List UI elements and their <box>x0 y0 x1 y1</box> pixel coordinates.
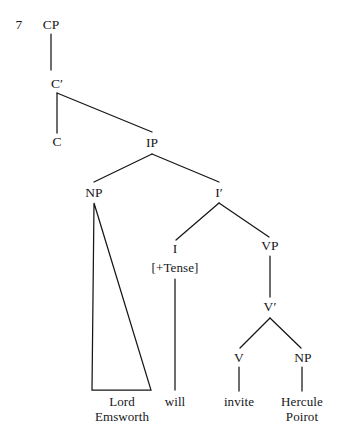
leaf-subject-line2: Emsworth <box>95 409 149 424</box>
branch-ibar-i <box>176 203 219 240</box>
node-cbar: C′ <box>51 76 63 92</box>
node-cp: CP <box>43 17 60 33</box>
leaf-object: Hercule Poirot <box>281 394 323 425</box>
node-c: C <box>52 134 61 150</box>
branch-ibar-vp <box>219 203 269 237</box>
branch-ip-np <box>94 154 152 182</box>
leaf-verb: invite <box>224 394 254 409</box>
leaf-aux: will <box>165 394 186 409</box>
leaf-object-line2: Poirot <box>281 409 323 424</box>
syntax-tree-figure: 7 CP C′ C IP NP I′ I [+Tense] VP V′ V NP… <box>0 0 341 442</box>
tree-branch-lines <box>0 0 341 442</box>
node-ibar: I′ <box>215 185 223 201</box>
node-np-subject: NP <box>85 185 102 201</box>
node-v: V <box>234 350 244 366</box>
branch-vbar-np <box>270 318 301 348</box>
leaf-object-line1: Hercule <box>281 394 323 409</box>
branch-cbar-ip <box>57 93 152 132</box>
node-i: I <box>173 241 178 257</box>
branch-vbar-v <box>240 318 270 348</box>
node-ip: IP <box>146 135 158 151</box>
np-subject-triangle <box>92 203 151 390</box>
node-i-features: [+Tense] <box>152 260 199 275</box>
branch-ip-ibar <box>152 154 219 182</box>
leaf-subject: Lord Emsworth <box>95 394 149 425</box>
node-np-object: NP <box>294 350 311 366</box>
node-vbar: V′ <box>264 299 277 315</box>
node-vp: VP <box>261 238 278 254</box>
leaf-subject-line1: Lord <box>95 394 149 409</box>
example-number: 7 <box>16 17 23 33</box>
